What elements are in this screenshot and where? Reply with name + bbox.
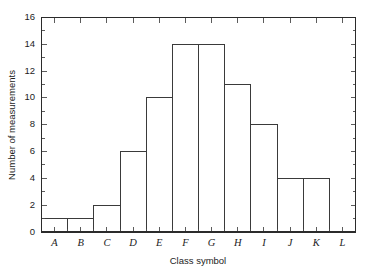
chart-canvas: 0246810121416 ABCDEFGHIJKL Class symbol … (0, 0, 379, 275)
y-tick-label-4: 4 (30, 172, 35, 183)
x-tick-label-g: G (208, 237, 216, 248)
bar-d (120, 152, 146, 232)
bar-k (303, 178, 329, 232)
y-tick-labels-group: 0246810121416 (24, 11, 35, 237)
y-tick-label-12: 12 (24, 65, 35, 76)
y-tick-label-14: 14 (24, 38, 35, 49)
histogram-figure: 0246810121416 ABCDEFGHIJKL Class symbol … (0, 0, 379, 275)
y-tick-label-6: 6 (30, 145, 35, 156)
x-tick-label-c: C (103, 237, 111, 248)
y-tick-label-10: 10 (24, 91, 35, 102)
x-tick-label-f: F (181, 237, 189, 248)
bar-h (225, 85, 251, 232)
bar-e (146, 98, 172, 232)
x-tick-label-e: E (155, 237, 163, 248)
x-tick-label-d: D (128, 237, 137, 248)
x-tick-labels-group: ABCDEFGHIJKL (50, 237, 345, 248)
bar-f (172, 44, 198, 232)
x-tick-label-h: H (233, 237, 243, 248)
y-tick-label-0: 0 (30, 226, 35, 237)
x-axis-title: Class symbol (170, 255, 227, 266)
x-tick-label-i: I (261, 237, 266, 248)
x-tick-label-k: K (312, 237, 321, 248)
y-axis-title: Number of measurements (6, 70, 17, 180)
y-tick-label-16: 16 (24, 11, 35, 22)
x-tick-label-j: J (288, 237, 294, 248)
x-tick-label-a: A (50, 237, 58, 248)
bar-g (199, 44, 225, 232)
bar-i (251, 125, 277, 232)
x-tick-label-l: L (338, 237, 345, 248)
x-tick-label-b: B (78, 237, 85, 248)
bar-j (277, 178, 303, 232)
y-tick-label-8: 8 (30, 118, 35, 129)
y-tick-label-2: 2 (30, 199, 35, 210)
